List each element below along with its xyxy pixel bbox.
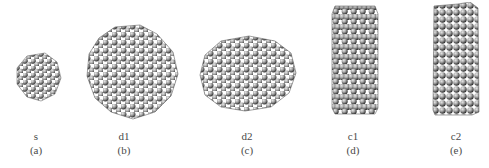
panel-d-name: c1	[323, 129, 383, 143]
panel-d-letter: (d)	[323, 143, 383, 157]
panel-c-name: d2	[217, 129, 277, 143]
panel-a-name: s	[6, 129, 66, 143]
panel-c-label: d2 (c)	[217, 129, 277, 157]
panel-e-label: c2 (e)	[426, 129, 486, 157]
panel-c-letter: (c)	[217, 143, 277, 157]
panel-e-name: c2	[426, 129, 486, 143]
panel-d-label: c1 (d)	[323, 129, 383, 157]
cluster-s-small-sphere	[15, 52, 63, 102]
panel-b-name: d1	[94, 129, 154, 143]
cluster-d1-large-sphere	[85, 24, 180, 120]
panel-a-label: s (a)	[6, 129, 66, 157]
panel-b-letter: (b)	[94, 143, 154, 157]
cluster-d2-flattened-disk	[199, 35, 297, 112]
cluster-c2-square-cylinder	[432, 2, 480, 116]
panel-a-letter: (a)	[6, 143, 66, 157]
panel-e-letter: (e)	[426, 143, 486, 157]
cluster-c1-hexagonal-cylinder	[331, 4, 379, 116]
panel-b-label: d1 (b)	[94, 129, 154, 157]
